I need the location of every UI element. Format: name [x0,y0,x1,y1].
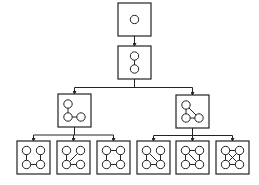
graph-vertex [142,146,150,154]
graph-vertex [130,15,138,23]
graph-vertex [221,160,229,168]
box-frame [97,141,130,174]
pattern-box-g4b [57,141,90,174]
pattern-box-g1 [118,3,151,36]
graph-vertex [235,146,243,154]
graph-vertex [22,146,30,154]
pattern-box-g4c [97,141,130,174]
graph-vertex [116,160,124,168]
graph-vertex [62,146,70,154]
graph-vertex [235,160,243,168]
graph-vertex [182,101,190,109]
graph-vertex [195,146,203,154]
graph-vertex [116,146,124,154]
graph-vertex [130,52,138,60]
graph-vertex [156,160,164,168]
pattern-box-g3b [176,95,209,128]
graph-vertex [36,146,44,154]
pattern-box-g4e [176,141,209,174]
graph-vertex [77,113,85,121]
pattern-box-g2 [118,46,151,79]
box-frame [17,141,50,174]
graph-vertex [195,114,203,122]
graph-vertex [36,160,44,168]
graph-vertex [102,146,110,154]
graph-vertex [182,114,190,122]
graph-vertex [62,160,70,168]
pattern-tree-diagram [0,0,259,185]
graph-vertex [130,65,138,73]
graph-vertex [181,160,189,168]
graph-vertex [181,146,189,154]
pattern-box-g4f [216,141,249,174]
graph-vertex [156,146,164,154]
graph-vertex [64,100,72,108]
pattern-box-g3a [58,94,91,127]
graph-vertex [76,146,84,154]
graph-vertex [76,160,84,168]
pattern-boxes [17,3,249,174]
graph-vertex [64,113,72,121]
graph-vertex [22,160,30,168]
pattern-box-g4a [17,141,50,174]
graph-vertex [142,160,150,168]
pattern-box-g4d [137,141,170,174]
graph-vertex [195,160,203,168]
box-frame [58,94,91,127]
graph-vertex [221,146,229,154]
graph-vertex [102,160,110,168]
